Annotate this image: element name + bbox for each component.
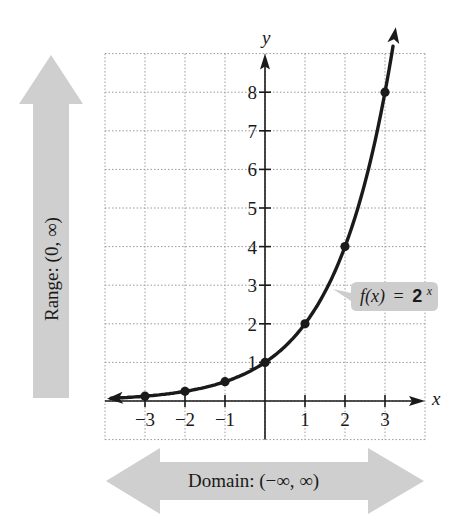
callout-exponent: x xyxy=(426,284,433,298)
x-tick-label: 1 xyxy=(300,409,310,430)
x-tick-label: 3 xyxy=(380,409,390,430)
callout-eq: = xyxy=(393,286,403,306)
callout-base: 2 xyxy=(412,286,422,306)
data-point xyxy=(180,387,189,396)
callout-fx: f(x) xyxy=(360,286,385,307)
tick-labels: −3−2−112312345678 xyxy=(135,82,390,430)
domain-label: Domain: (−∞, ∞) xyxy=(188,470,319,492)
data-point xyxy=(260,358,269,367)
data-point xyxy=(300,319,309,328)
y-axis-label: y xyxy=(260,27,271,48)
function-callout: f(x) = 2 x xyxy=(333,282,438,311)
x-tick-label: −2 xyxy=(175,409,195,430)
y-tick-label: 7 xyxy=(248,121,258,142)
data-point xyxy=(340,242,349,251)
y-tick-label: 5 xyxy=(248,198,258,219)
y-tick-label: 3 xyxy=(248,275,258,296)
data-point xyxy=(140,392,149,401)
data-point xyxy=(220,377,229,386)
range-label: Range: (0, ∞) xyxy=(41,217,63,321)
callout-text: f(x) = 2 x xyxy=(360,284,433,307)
domain-arrow: Domain: (−∞, ∞) xyxy=(106,448,424,514)
exponential-graph: −3−2−112312345678 y x Range: (0, ∞) Doma… xyxy=(0,0,467,531)
range-arrow: Range: (0, ∞) xyxy=(19,55,83,398)
x-tick-label: −3 xyxy=(135,409,155,430)
x-tick-label: −1 xyxy=(215,409,235,430)
x-tick-label: 2 xyxy=(340,409,350,430)
curve-right-arrowhead xyxy=(387,27,399,44)
data-point xyxy=(380,88,389,97)
y-tick-label: 8 xyxy=(248,82,258,103)
y-tick-label: 4 xyxy=(248,237,258,258)
y-tick-label: 6 xyxy=(248,159,258,180)
x-axis-label: x xyxy=(431,388,441,409)
y-tick-label: 2 xyxy=(248,314,258,335)
